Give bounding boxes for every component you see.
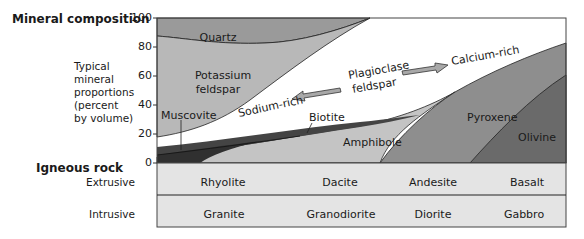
rock-granodiorite: Granodiorite (307, 208, 376, 221)
amphibole-label: Amphibole (343, 136, 402, 149)
rock-granite: Granite (204, 208, 245, 221)
muscovite-label: Muscovite (161, 109, 217, 122)
y-axis-ticks (153, 18, 157, 163)
rock-basalt: Basalt (510, 176, 545, 189)
quartz-label: Quartz (200, 31, 237, 44)
rock-andesite: Andesite (409, 176, 457, 189)
rock-gabbro: Gabbro (504, 208, 545, 221)
potassium-feldspar-label-1: Potassium (195, 69, 251, 82)
rock-diorite: Diorite (415, 208, 452, 221)
biotite-label: Biotite (309, 111, 345, 124)
rock-dacite: Dacite (322, 176, 358, 189)
mineral-composition-chart: Quartz Potassium feldspar Plagioclase fe… (0, 0, 584, 239)
pyroxene-label: Pyroxene (467, 111, 518, 124)
olivine-label: Olivine (518, 131, 556, 144)
rock-rhyolite: Rhyolite (200, 176, 245, 189)
potassium-feldspar-label-2: feldspar (196, 83, 241, 96)
